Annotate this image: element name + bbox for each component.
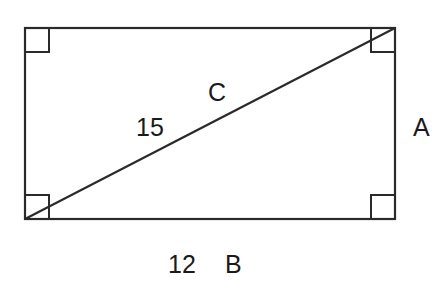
diagonal-line [25,28,395,219]
right-angle-marker-top-right [371,28,395,52]
right-angle-marker-bottom-left [25,195,49,219]
label-diagonal-length: 15 [136,115,164,140]
label-bottom-letter: B [225,252,242,277]
right-angle-marker-top-left [25,28,49,52]
diagram-canvas [0,0,448,299]
label-bottom-length: 12 [168,252,196,277]
label-diagonal-letter: C [208,80,226,105]
label-side-right-letter: A [413,115,430,140]
right-angle-marker-bottom-right [371,195,395,219]
